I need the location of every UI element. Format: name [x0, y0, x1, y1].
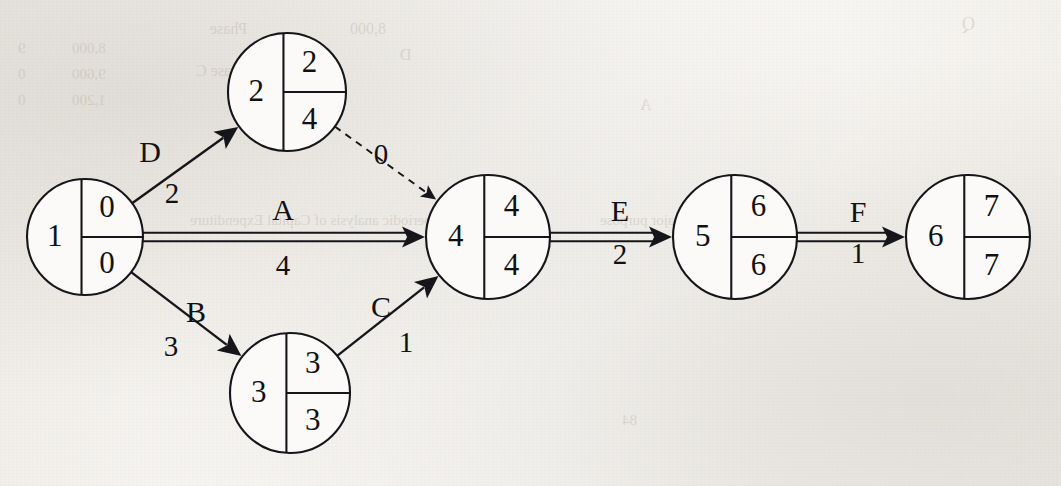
node-latest-time: 4 [504, 247, 520, 282]
node-id-label: 5 [695, 218, 711, 253]
arrowhead-dummy [420, 185, 436, 199]
arrowhead-A [402, 226, 425, 247]
node-id-label: 4 [448, 218, 464, 253]
edge-B[interactable] [131, 272, 227, 345]
node-4[interactable]: 444 [426, 175, 550, 299]
edge-label-A: A [272, 193, 294, 226]
arrowhead-F [882, 226, 905, 247]
node-earliest-time: 3 [305, 345, 321, 380]
arrowhead-C [414, 276, 439, 299]
edge-label-C: C [371, 290, 391, 323]
edge-F[interactable] [797, 233, 887, 241]
node-earliest-time: 4 [504, 188, 520, 223]
scanned-diagram-page: 8,0009,6001,200900Phase8,000Phase CBDthe… [0, 0, 1061, 486]
edge-duration-D: 2 [165, 177, 180, 209]
node-2[interactable]: 224 [228, 33, 346, 151]
node-id-label: 3 [251, 374, 267, 409]
edge-duration-dummy: 0 [374, 138, 389, 170]
edge-duration-E: 2 [613, 238, 628, 270]
activity-network-diagram: 100224333444566677 D2A4B3C1E2F10 [0, 0, 1061, 486]
node-earliest-time: 0 [99, 189, 115, 224]
node-1[interactable]: 100 [27, 179, 143, 295]
edge-duration-C: 1 [399, 326, 414, 358]
edge-A[interactable] [143, 233, 407, 241]
arrowhead-E [649, 226, 672, 247]
edge-duration-A: 4 [276, 249, 291, 281]
arrowhead-B [217, 334, 242, 356]
node-latest-time: 3 [305, 402, 321, 437]
node-latest-time: 7 [984, 247, 1000, 282]
edge-label-E: E [611, 194, 629, 227]
edge-duration-B: 3 [164, 330, 179, 362]
node-3[interactable]: 333 [230, 333, 350, 453]
node-id-label: 2 [249, 73, 265, 108]
edge-label-D: D [139, 135, 161, 168]
node-id-label: 1 [47, 218, 63, 253]
edge-label-F: F [850, 195, 867, 228]
node-latest-time: 0 [99, 245, 115, 280]
node-latest-time: 6 [751, 247, 767, 282]
arrowhead-D [213, 127, 238, 149]
edge-label-B: B [186, 295, 206, 328]
node-earliest-time: 7 [984, 188, 1000, 223]
edge-duration-F: 1 [851, 237, 866, 269]
edge-E[interactable] [550, 233, 654, 241]
node-id-label: 6 [928, 218, 944, 253]
node-6[interactable]: 677 [906, 175, 1030, 299]
node-earliest-time: 2 [302, 44, 318, 79]
node-earliest-time: 6 [751, 188, 767, 223]
node-latest-time: 4 [302, 101, 318, 136]
nodes-layer: 100224333444566677 [27, 33, 1030, 453]
node-5[interactable]: 566 [673, 175, 797, 299]
